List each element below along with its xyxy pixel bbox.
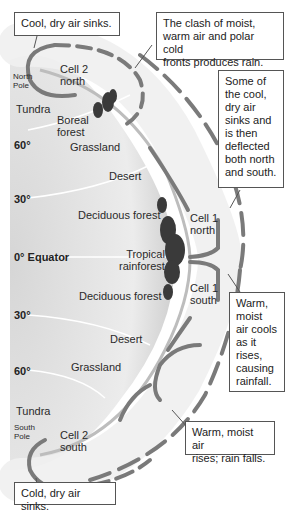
biome-tundra-north: Tundra <box>16 103 50 115</box>
biome-desert-south: Desert <box>110 333 142 345</box>
biome-tropical-rainforest: Tropical rainforest <box>119 248 165 272</box>
biome-tundra-south: Tundra <box>16 405 50 417</box>
latitude-30-south: 30° <box>14 309 31 321</box>
cell-1-south-label: Cell 1 south <box>190 282 218 306</box>
biome-grassland-south: Grassland <box>71 361 121 373</box>
callout-deflected-north-south: Some of the cool, dry air sinks and is t… <box>218 70 284 188</box>
cell-2-south-label: Cell 2 south <box>60 429 88 453</box>
latitude-equator: 0° Equator <box>14 251 69 263</box>
latitude-30-north: 30° <box>14 193 31 205</box>
latitude-60-south: 60° <box>14 365 31 377</box>
biome-deciduous-south: Deciduous forest <box>79 290 162 302</box>
latitude-60-north: 60° <box>14 139 31 151</box>
biome-desert-north: Desert <box>109 170 141 182</box>
biome-boreal-forest: Boreal forest <box>57 114 89 138</box>
callout-cool-dry-air-sinks: Cool, dry air sinks. <box>14 12 120 36</box>
biome-deciduous-north: Deciduous forest <box>78 209 161 221</box>
callout-clash-of-fronts: The clash of moist, warm air and polar c… <box>156 12 284 60</box>
biome-grassland-north: Grassland <box>70 141 120 153</box>
callout-cold-dry-air-sinks: Cold, dry air sinks. <box>14 482 116 505</box>
cell-1-north-label: Cell 1 north <box>190 212 218 236</box>
cell-2-north-label: Cell 2 north <box>60 63 88 87</box>
callout-warm-moist-air-rises: Warm, moist air rises; rain falls. <box>185 421 275 455</box>
south-pole-label: South Pole <box>14 423 35 441</box>
callout-warm-moist-air-cools: Warm, moist air cools as it rises, causi… <box>229 292 285 392</box>
north-pole-label: North Pole <box>13 72 33 90</box>
